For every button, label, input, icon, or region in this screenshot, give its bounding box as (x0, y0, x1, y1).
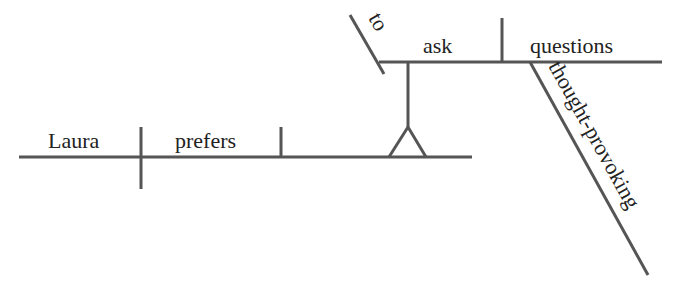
sentence-diagram: Laura prefers ask questions to thought-p… (0, 0, 682, 288)
pedestal-stilt (389, 127, 426, 157)
word-infinitive-object: questions (530, 33, 613, 58)
word-modifier: thought-provoking (544, 56, 646, 212)
word-subject: Laura (48, 128, 100, 153)
word-verb: prefers (175, 128, 236, 153)
modifier-line (530, 62, 648, 275)
word-infinitive-verb: ask (423, 33, 452, 58)
word-infinitive-marker: to (364, 8, 394, 35)
